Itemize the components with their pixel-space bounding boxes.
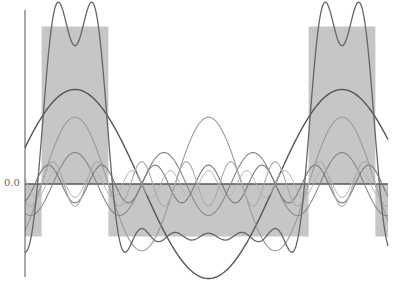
pulse-high-block	[309, 27, 376, 185]
y-tick-zero-label: 0.0	[4, 177, 20, 188]
fourier-chart	[0, 0, 398, 288]
pulse-high-block	[42, 27, 109, 185]
